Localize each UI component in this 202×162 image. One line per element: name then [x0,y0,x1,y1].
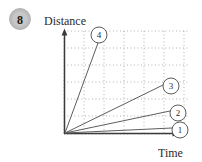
distance-time-graph: 8 [0,0,202,162]
marker-4: 4 [91,27,107,43]
marker-4-label: 4 [97,30,102,40]
marker-1-label: 1 [178,125,183,135]
question-number-text: 8 [17,13,23,27]
marker-3: 3 [163,78,179,94]
x-axis-label: Time [158,146,183,160]
figure-container: 8 [0,0,202,162]
marker-2-label: 2 [176,108,181,118]
question-number-badge: 8 [10,9,31,30]
marker-3-label: 3 [169,81,174,91]
marker-1: 1 [172,122,188,138]
y-axis-label: Distance [44,14,86,28]
marker-2: 2 [170,105,186,121]
